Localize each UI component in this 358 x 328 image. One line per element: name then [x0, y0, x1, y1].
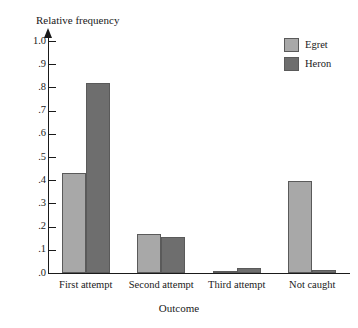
y-axis-tick-label: .0	[6, 268, 46, 279]
bar-egret-second-attempt[interactable]	[137, 234, 161, 273]
y-axis-title: Relative frequency	[36, 14, 119, 26]
bar-heron-first-attempt[interactable]	[86, 83, 110, 273]
bar-egret-not-caught[interactable]	[288, 181, 312, 273]
legend-item-egret[interactable]: Egret	[284, 36, 331, 53]
y-axis-tick-label: .3	[6, 198, 46, 209]
bar-egret-third-attempt[interactable]	[213, 271, 237, 274]
y-axis-tick-label: .2	[6, 221, 46, 232]
y-axis-tick-label: .6	[6, 128, 46, 139]
x-axis-category-label: Second attempt	[124, 279, 200, 290]
y-axis-tick-label: 1.0	[6, 36, 46, 47]
relative-frequency-bar-chart: Relative frequency 1.0.9.8.7.6.5.4.3.2.1…	[0, 0, 358, 328]
bar-heron-second-attempt[interactable]	[161, 237, 185, 273]
y-axis-tick-label: .8	[6, 82, 46, 93]
legend-swatch-egret	[284, 38, 299, 52]
bar-group	[213, 33, 261, 273]
bar-heron-not-caught[interactable]	[312, 270, 336, 273]
x-axis-category-label: Third attempt	[199, 279, 275, 290]
y-axis-tick-label: .1	[6, 244, 46, 255]
legend: EgretHeron	[284, 36, 331, 74]
bar-group	[137, 33, 185, 273]
x-axis-category-label: Not caught	[275, 279, 351, 290]
bar-group	[62, 33, 110, 273]
y-axis-tick-mark	[49, 273, 56, 274]
y-axis-tick-label: .4	[6, 175, 46, 186]
y-axis-tick-label: .7	[6, 105, 46, 116]
x-axis-line	[48, 273, 350, 274]
y-axis-tick-label: .5	[6, 152, 46, 163]
bar-heron-third-attempt[interactable]	[237, 268, 261, 273]
legend-label: Heron	[305, 58, 331, 69]
x-axis-category-label: First attempt	[48, 279, 124, 290]
y-axis-tick-label: .9	[6, 59, 46, 70]
legend-swatch-heron	[284, 57, 299, 71]
bar-egret-first-attempt[interactable]	[62, 173, 86, 273]
legend-item-heron[interactable]: Heron	[284, 55, 331, 72]
x-axis-title: Outcome	[0, 302, 358, 314]
legend-label: Egret	[305, 39, 328, 50]
